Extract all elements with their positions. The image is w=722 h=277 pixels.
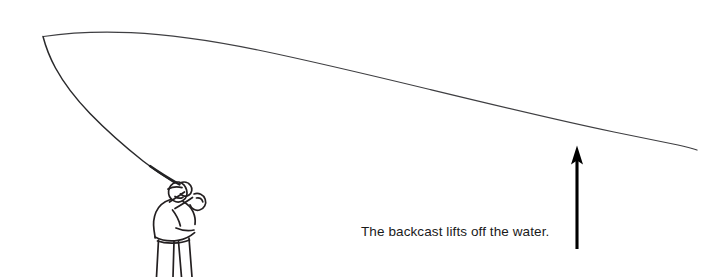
fly-line-lower-leg xyxy=(43,37,175,184)
figure-caption: The backcast lifts off the water. xyxy=(361,224,549,240)
fly-fisherman xyxy=(154,182,206,277)
up-arrow xyxy=(571,146,583,250)
fly-line-upper-leg xyxy=(44,32,698,150)
illustration-figure: The backcast lifts off the water. xyxy=(0,0,722,277)
